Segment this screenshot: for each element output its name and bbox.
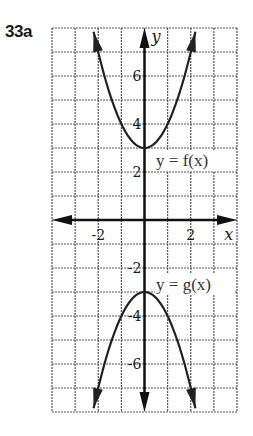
x-tick-label: 2 xyxy=(186,227,195,243)
x-axis-left-arrow-icon xyxy=(52,215,72,225)
x-tick-label: -2 xyxy=(91,227,105,243)
x-axis-label: x xyxy=(224,225,233,244)
y-tick-label: -6 xyxy=(128,356,142,372)
curve-label-f: y = f(x) xyxy=(156,151,208,170)
y-tick-label: -2 xyxy=(128,260,142,276)
curve-label-g: y = g(x) xyxy=(156,275,211,294)
y-axis-label: y xyxy=(151,27,162,46)
y-tick-label: 4 xyxy=(133,116,142,132)
y-tick-label: 6 xyxy=(133,68,142,84)
x-axis-right-arrow-icon xyxy=(217,215,237,225)
y-tick-label: -4 xyxy=(128,308,142,324)
curve-g-arrow-icon xyxy=(93,388,103,409)
y-axis-up-arrow-icon xyxy=(140,28,150,48)
curve-g-arrow-icon xyxy=(186,388,196,409)
coordinate-graph: yx-22642-2-4-6y = f(x)y = g(x) xyxy=(0,0,253,436)
y-axis-down-arrow-icon xyxy=(140,392,150,412)
y-tick-label: 2 xyxy=(133,164,142,180)
